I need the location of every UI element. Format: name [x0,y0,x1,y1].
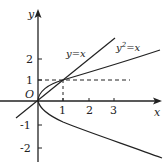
y-tick-label-2: 2 [26,53,33,66]
parabola-lower-branch [38,101,162,158]
parabola-upper-branch [38,50,160,101]
y-axis-label: y [27,8,35,21]
function-graph: y x O 1 2 3 2 1 -1 -2 y=x y2=x [0,0,164,166]
line-label: y=x [65,48,86,59]
x-tick-label-2: 2 [86,104,93,117]
origin-label: O [25,88,34,101]
x-tick-label-1: 1 [59,104,66,117]
y-tick-label-neg2: -2 [20,142,31,155]
y-tick-label-1: 1 [26,74,33,87]
parabola-label-rest: =x [126,42,140,53]
x-tick-label-3: 3 [110,104,117,117]
parabola-label: y2=x [115,41,141,53]
y-tick-label-neg1: -1 [20,119,31,132]
x-axis-label: x [154,106,161,119]
